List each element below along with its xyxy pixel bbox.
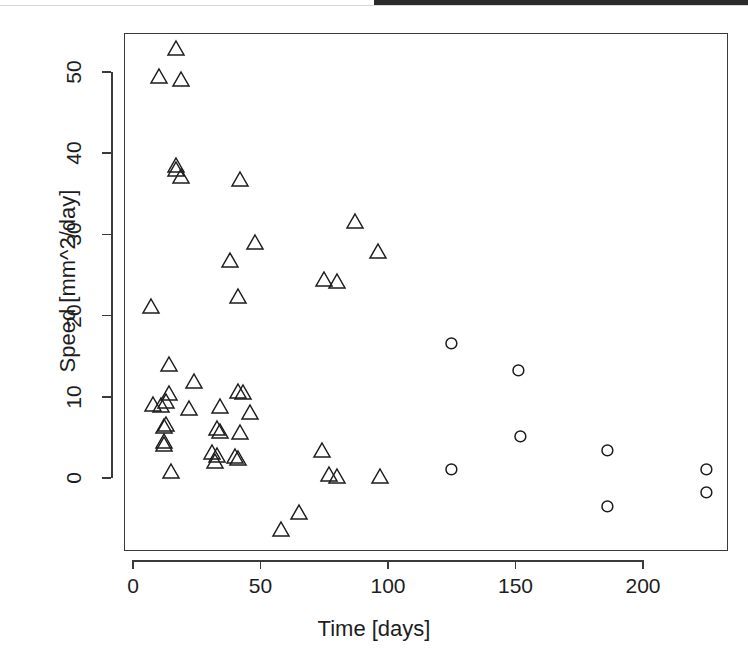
- data-point-triangle: [231, 171, 249, 187]
- data-point-triangle: [369, 243, 387, 259]
- scatter-plot-figure: 050100150200 01020304050 Time [days] Spe…: [0, 0, 748, 672]
- data-point-circle: [512, 364, 525, 377]
- data-point-triangle: [290, 504, 308, 520]
- data-point-triangle: [246, 234, 264, 250]
- y-tick-mark: [102, 234, 111, 236]
- x-tick-mark: [260, 560, 262, 569]
- y-tick-mark: [102, 477, 111, 479]
- data-point-triangle: [229, 450, 247, 466]
- x-tick-label: 0: [98, 574, 168, 598]
- data-point-triangle: [172, 71, 190, 87]
- data-point-triangle: [229, 288, 247, 304]
- data-point-triangle: [234, 384, 252, 400]
- x-tick-label: 200: [608, 574, 678, 598]
- data-point-triangle: [152, 397, 170, 413]
- data-point-triangle: [328, 273, 346, 289]
- data-point-circle: [445, 337, 458, 350]
- plot-panel: [124, 33, 728, 551]
- data-point-triangle: [167, 40, 185, 56]
- data-point-triangle: [206, 453, 224, 469]
- data-point-circle: [700, 486, 713, 499]
- y-axis-title-wrapper: Speed [mm^2/day]: [55, 81, 81, 481]
- x-tick-mark: [642, 560, 644, 569]
- x-tick-mark: [515, 560, 517, 569]
- data-point-circle: [601, 444, 614, 457]
- y-tick-mark: [102, 71, 111, 73]
- data-point-triangle: [371, 468, 389, 484]
- data-point-triangle: [328, 468, 346, 484]
- data-point-circle: [445, 463, 458, 476]
- data-point-triangle: [142, 298, 160, 314]
- data-point-triangle: [313, 442, 331, 458]
- y-tick-mark: [102, 396, 111, 398]
- data-point-triangle: [272, 521, 290, 537]
- x-axis-title: Time [days]: [0, 616, 748, 642]
- x-tick-label: 50: [226, 574, 296, 598]
- x-tick-mark: [132, 560, 134, 569]
- y-tick-mark: [102, 152, 111, 154]
- data-point-triangle: [211, 398, 229, 414]
- data-point-circle: [700, 463, 713, 476]
- data-point-triangle: [231, 424, 249, 440]
- data-point-triangle: [150, 68, 168, 84]
- data-point-triangle: [160, 356, 178, 372]
- data-point-circle: [601, 500, 614, 513]
- x-tick-mark: [387, 560, 389, 569]
- data-point-triangle: [211, 423, 229, 439]
- data-point-triangle: [346, 213, 364, 229]
- y-axis-line: [111, 72, 113, 478]
- data-point-triangle: [155, 436, 173, 452]
- x-tick-label: 150: [481, 574, 551, 598]
- data-point-triangle: [185, 373, 203, 389]
- data-point-circle: [514, 430, 527, 443]
- data-point-triangle: [180, 400, 198, 416]
- data-point-triangle: [241, 404, 259, 420]
- data-point-triangle: [172, 168, 190, 184]
- y-axis-title: Speed [mm^2/day]: [55, 190, 80, 373]
- data-point-triangle: [155, 418, 173, 434]
- data-point-triangle: [221, 252, 239, 268]
- data-point-triangle: [162, 463, 180, 479]
- x-tick-label: 100: [353, 574, 423, 598]
- y-tick-mark: [102, 315, 111, 317]
